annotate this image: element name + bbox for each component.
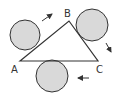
vertex-label-b: B <box>64 8 71 19</box>
arrow-down-right-icon <box>106 43 111 52</box>
vertex-label-a: A <box>11 64 18 75</box>
arrow-up-right-icon <box>42 14 52 21</box>
circle-on-side-bc <box>76 9 108 41</box>
triangle-diagram: A B C <box>0 0 118 108</box>
circle-on-side-ab <box>10 20 40 50</box>
diagram-svg: A B C <box>0 0 118 108</box>
circle-on-side-ca <box>36 60 68 92</box>
vertex-label-c: C <box>96 64 103 75</box>
